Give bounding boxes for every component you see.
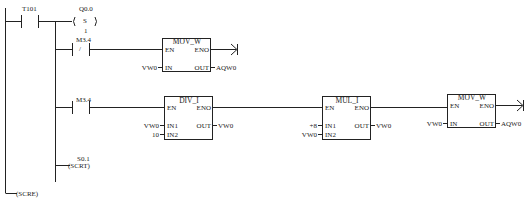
mov1-title: MOV_W (163, 38, 211, 46)
scrt-coil: (SCRT) (68, 162, 90, 170)
div-out-value: VW0 (218, 122, 233, 130)
mov2-out-pin: OUT (475, 120, 494, 128)
mov1-out-pin: OUT (190, 64, 209, 72)
mul-in2-value: VW0 (294, 131, 317, 139)
div-in2-pin: IN2 (167, 131, 178, 139)
scre-coil: (SCRE) (16, 190, 38, 198)
m34-nc-contact-label: M3.4 (76, 36, 91, 44)
mov2-out-value: AQW0 (501, 120, 521, 128)
mov1-en: EN (165, 46, 174, 54)
div-in1-value: VW0 (136, 122, 159, 130)
mov1-in-pin: IN (165, 64, 172, 72)
mul-out-pin: OUT (350, 122, 369, 130)
mul-eno: ENO (350, 104, 369, 112)
mov2-in-value: VW0 (419, 120, 442, 128)
q00-coil-count: 1 (84, 27, 88, 35)
mul-in2-pin: IN2 (325, 131, 336, 139)
div-out-pin: OUT (192, 122, 211, 130)
q00-coil-label: Q0.0 (79, 5, 93, 13)
t101-contact-label: T101 (22, 5, 37, 13)
mov2-eno: ENO (475, 102, 494, 110)
mul-in1-value: +8 (294, 122, 317, 130)
mov1-eno: ENO (190, 46, 209, 54)
mul-in1-pin: IN1 (325, 122, 336, 130)
mov2-title: MOV_W (448, 94, 496, 102)
mov2-in-pin: IN (450, 120, 457, 128)
div-en: EN (167, 104, 176, 112)
div-in2-value: 10 (136, 131, 159, 139)
mov1-out-value: AQW0 (216, 64, 236, 72)
m34-nc-symbol: / (79, 45, 81, 53)
mov2-en: EN (450, 102, 459, 110)
div-in1-pin: IN1 (167, 122, 178, 130)
m34-no-contact-label: M3.4 (76, 96, 91, 104)
q00-coil-type: S (83, 17, 87, 25)
mul-out-value: VW0 (376, 122, 391, 130)
mov1-in-value: VW0 (134, 64, 157, 72)
div-eno: ENO (192, 104, 211, 112)
mul-en: EN (325, 104, 334, 112)
